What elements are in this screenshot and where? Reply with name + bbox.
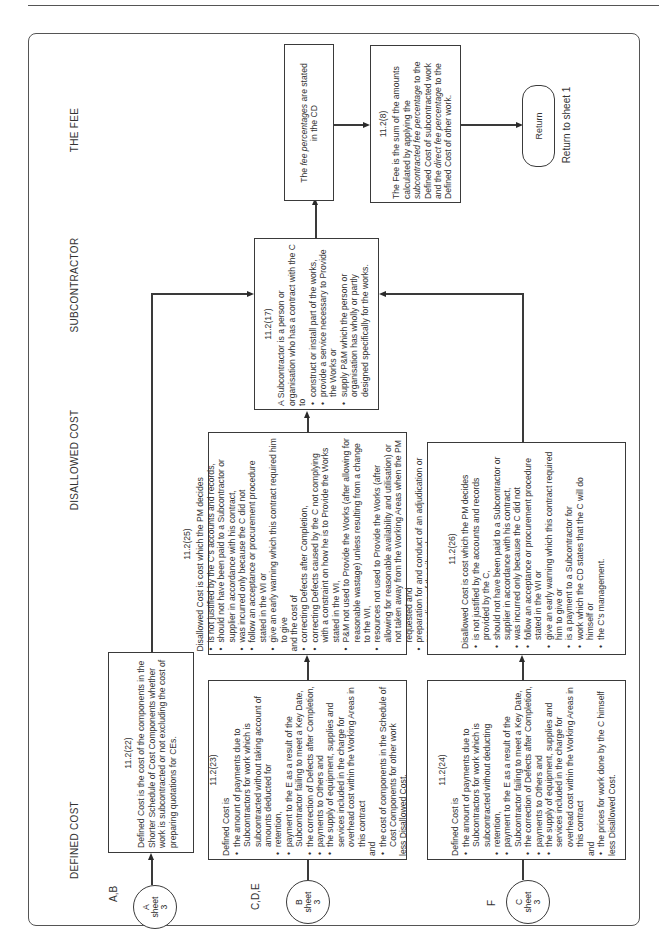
connector-line <box>307 860 309 880</box>
arrow-right-icon <box>363 122 370 128</box>
connector-line <box>307 418 309 432</box>
connector-line <box>461 124 518 126</box>
arrow-up-icon <box>304 655 310 662</box>
row-label-ab: A,B <box>108 886 119 902</box>
connector-line <box>307 662 309 680</box>
connector-line <box>315 205 317 238</box>
column-header-the-fee: THE FEE <box>60 100 88 160</box>
box-11-2-25: 11.2(25) Disallowed Cost is cost which t… <box>208 432 407 655</box>
arrow-up-icon <box>519 655 525 662</box>
box-11-2-26: 11.2(26) Disallowed Cost is cost which t… <box>427 442 626 655</box>
box-11-2-23: 11.2(23) Defined Cost is the amount of p… <box>208 680 407 860</box>
arrow-left-icon <box>379 291 386 297</box>
box-11-2-17: 11.2(17) A Subcontractor is a person or … <box>254 238 379 410</box>
connector-line <box>522 860 524 880</box>
column-header-subcontractor: SUBCONTRACTOR <box>60 225 88 345</box>
page-top-rule <box>28 5 659 6</box>
connector-line <box>334 124 364 126</box>
connector-line <box>151 293 251 295</box>
connector-line <box>522 662 524 680</box>
connector-a-sheet-3[interactable]: Asheet3 <box>133 885 177 929</box>
connector-line <box>151 860 153 885</box>
connector-line <box>522 293 524 442</box>
connector-c-sheet-3[interactable]: Csheet3 <box>506 880 550 924</box>
arrow-up-icon <box>304 411 310 418</box>
box-11-2-24: 11.2(24) Defined Cost is the amount of p… <box>427 680 626 860</box>
return-terminal[interactable]: Return <box>522 85 555 167</box>
arrow-right-icon <box>247 291 254 297</box>
column-header-defined-cost: DEFINED COST <box>60 780 88 900</box>
column-header-disallowed-cost: DISALLOWED COST <box>60 380 88 540</box>
connector-b-sheet-3[interactable]: Bsheet3 <box>286 880 330 924</box>
box-11-2-8: 11.2(8) The Fee is the sum of the amount… <box>370 45 461 203</box>
arrow-up-icon <box>148 853 154 860</box>
box-fee-percentages: The fee percentages are stated in the CD <box>284 44 334 201</box>
return-caption: Return to sheet 1 <box>558 80 574 170</box>
row-label-f: F <box>486 900 497 906</box>
box-11-2-22: 11.2(22) Defined Cost is the cost of the… <box>108 652 194 853</box>
connector-line <box>151 293 153 652</box>
connector-line <box>385 293 523 295</box>
row-label-cde: C,D,E <box>250 883 261 910</box>
